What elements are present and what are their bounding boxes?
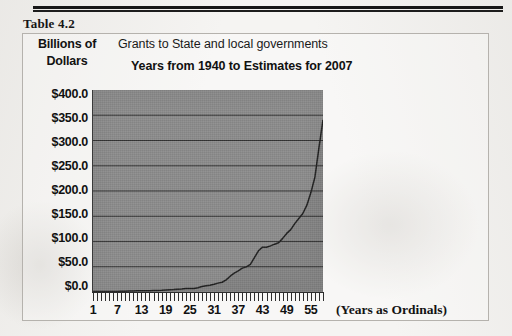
x-axis-tick xyxy=(202,293,203,301)
page-background: Table 4.2 Billions of Dollars Grants to … xyxy=(0,0,512,336)
y-axis-tick-labels: $400.0$350.0$300.0$250.0$200.0$150.0$100… xyxy=(22,82,88,298)
x-axis-tick xyxy=(214,293,215,301)
x-axis-tick xyxy=(93,293,94,301)
x-axis-tick xyxy=(222,293,223,301)
x-axis-tick-label: 37 xyxy=(232,303,245,317)
x-axis-tick-label: 7 xyxy=(114,303,121,317)
x-axis-tick xyxy=(303,293,304,301)
x-axis-tick xyxy=(117,293,118,301)
y-axis-line xyxy=(92,90,93,293)
x-axis-ticks xyxy=(93,293,323,302)
x-axis-tick xyxy=(315,293,316,301)
x-axis-tick xyxy=(137,293,138,301)
x-axis-tick xyxy=(198,293,199,301)
y-axis-tick-label: $400.0 xyxy=(22,82,88,106)
x-axis-tick xyxy=(174,293,175,301)
x-axis-tick xyxy=(287,293,288,301)
x-axis-tick xyxy=(230,293,231,301)
plot-area xyxy=(93,90,323,292)
y-axis-tick-label: $250.0 xyxy=(22,154,88,178)
x-axis-tick xyxy=(178,293,179,301)
chart-title-primary: Grants to State and local governments xyxy=(118,37,328,51)
x-axis-tick xyxy=(279,293,280,301)
x-axis-tick xyxy=(121,293,122,301)
y-axis-unit-line2: Dollars xyxy=(26,53,108,70)
x-axis-tick-labels: 171319253137434955 xyxy=(93,303,325,323)
chart-svg xyxy=(93,90,323,292)
x-axis-tick xyxy=(295,293,296,301)
x-axis-tick-label: 43 xyxy=(256,303,269,317)
x-axis-tick-label: 55 xyxy=(304,303,317,317)
x-axis-title: (Years as Ordinals) xyxy=(336,302,447,318)
x-axis-tick xyxy=(311,293,312,301)
x-axis-tick xyxy=(299,293,300,301)
x-axis-tick xyxy=(149,293,150,301)
x-axis-tick-label: 49 xyxy=(280,303,293,317)
x-axis-tick xyxy=(194,293,195,301)
x-axis-tick xyxy=(97,293,98,301)
x-axis-tick-label: 19 xyxy=(159,303,172,317)
table-caption: Table 4.2 xyxy=(23,16,75,32)
x-axis-tick xyxy=(162,293,163,301)
x-axis-tick xyxy=(319,293,320,301)
x-axis-tick xyxy=(226,293,227,301)
x-axis-tick xyxy=(254,293,255,301)
x-axis-tick xyxy=(234,293,235,301)
series-area-fill xyxy=(93,120,323,292)
x-axis-tick xyxy=(154,293,155,301)
y-axis-tick-label: $0.0 xyxy=(22,274,88,298)
x-axis-tick xyxy=(242,293,243,301)
x-axis-tick xyxy=(125,293,126,301)
x-axis-tick xyxy=(206,293,207,301)
x-axis-tick xyxy=(238,293,239,301)
y-axis-unit-label: Billions of Dollars xyxy=(26,36,108,70)
x-axis-tick xyxy=(246,293,247,301)
x-axis-tick xyxy=(105,293,106,301)
y-axis-tick-label: $100.0 xyxy=(22,226,88,250)
x-axis-tick xyxy=(271,293,272,301)
y-axis-tick-label: $150.0 xyxy=(22,202,88,226)
y-axis-unit-line1: Billions of xyxy=(26,36,108,53)
header-rule xyxy=(33,6,503,12)
chart-title-secondary: Years from 1940 to Estimates for 2007 xyxy=(131,59,352,73)
x-axis-tick xyxy=(109,293,110,301)
x-axis-tick-label: 25 xyxy=(183,303,196,317)
x-axis-tick xyxy=(250,293,251,301)
x-axis-tick-label: 13 xyxy=(135,303,148,317)
x-axis-tick xyxy=(170,293,171,301)
x-axis-tick xyxy=(113,293,114,301)
x-axis-tick xyxy=(291,293,292,301)
y-axis-tick-label: $50.0 xyxy=(22,250,88,274)
x-axis-tick xyxy=(258,293,259,301)
x-axis-tick xyxy=(323,293,324,301)
x-axis-tick xyxy=(267,293,268,301)
x-axis-tick xyxy=(141,293,142,301)
x-axis-tick-label: 31 xyxy=(207,303,220,317)
x-axis-tick xyxy=(133,293,134,301)
x-axis-tick xyxy=(129,293,130,301)
x-axis-tick xyxy=(166,293,167,301)
x-axis-tick xyxy=(307,293,308,301)
x-axis-tick xyxy=(210,293,211,301)
x-axis-tick xyxy=(218,293,219,301)
y-axis-tick-label: $350.0 xyxy=(22,106,88,130)
x-axis-tick xyxy=(158,293,159,301)
y-axis-tick-label: $200.0 xyxy=(22,178,88,202)
y-axis-tick-label: $300.0 xyxy=(22,130,88,154)
x-axis-tick xyxy=(145,293,146,301)
x-axis-tick xyxy=(283,293,284,301)
x-axis-tick xyxy=(101,293,102,301)
x-axis-tick xyxy=(275,293,276,301)
x-axis-tick xyxy=(182,293,183,301)
x-axis-tick xyxy=(190,293,191,301)
x-axis-tick-label: 1 xyxy=(90,303,97,317)
x-axis-tick xyxy=(262,293,263,301)
x-axis-tick xyxy=(186,293,187,301)
